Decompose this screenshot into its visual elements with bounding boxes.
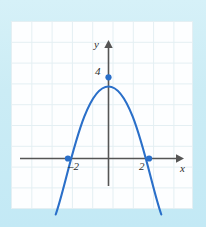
right-root-label: 2 [139, 161, 145, 172]
x-axis [20, 154, 184, 162]
plot-area [0, 0, 206, 227]
x-axis-label: x [180, 163, 185, 174]
graph-figure: y x 4 –2 2 [0, 0, 206, 227]
point-vertex [105, 74, 111, 80]
left-root-label: –2 [68, 161, 79, 172]
point-right-root [146, 155, 152, 161]
y-intercept-label: 4 [95, 66, 101, 77]
y-axis-label: y [94, 39, 99, 50]
y-axis [104, 40, 112, 186]
